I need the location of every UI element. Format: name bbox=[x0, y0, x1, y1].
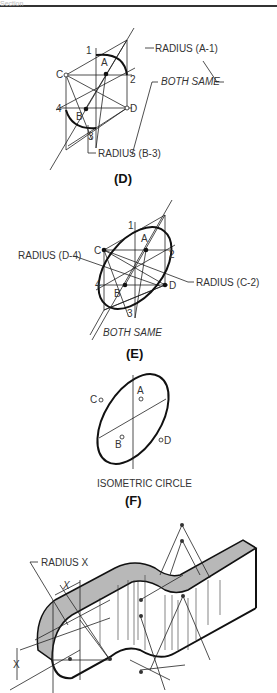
point-d bbox=[163, 283, 168, 288]
both-same-label-e: BOTH SAME bbox=[103, 327, 162, 338]
x-dimension-side: X bbox=[13, 659, 20, 670]
figure-d: 1 A C 2 4 B D 3 RADIUS (A-1) BOTH SAME R… bbox=[50, 28, 224, 186]
radius-c2-label: RADIUS (C-2) bbox=[196, 277, 259, 288]
label-3: 3 bbox=[88, 131, 94, 142]
label-d: D bbox=[130, 103, 137, 114]
label-a: A bbox=[141, 233, 148, 244]
center-point-b bbox=[84, 107, 89, 112]
center-dot bbox=[139, 670, 143, 674]
center-dot bbox=[68, 657, 72, 661]
label-4: 4 bbox=[95, 279, 101, 290]
point-d bbox=[125, 106, 129, 110]
radius-b3-label: RADIUS (B-3) bbox=[98, 148, 161, 159]
center-point-a bbox=[104, 72, 109, 77]
center-dot bbox=[139, 598, 143, 602]
label-a: A bbox=[137, 385, 144, 396]
radius-a1-label: RADIUS (A-1) bbox=[155, 43, 218, 54]
isometric-construction-figure: 1 A C 2 4 B D 3 RADIUS (A-1) BOTH SAME R… bbox=[0, 0, 277, 693]
label-a: A bbox=[101, 57, 108, 68]
x-dimension-top: X bbox=[62, 580, 70, 591]
center-dot bbox=[180, 539, 184, 543]
label-c: C bbox=[56, 69, 63, 80]
center-point-a bbox=[144, 248, 149, 253]
radius-x-label: RADIUS X bbox=[41, 557, 89, 568]
center-dot bbox=[139, 614, 143, 618]
label-d: D bbox=[169, 280, 176, 291]
label-d: D bbox=[164, 435, 171, 446]
center-dot bbox=[108, 657, 112, 661]
label-b: B bbox=[115, 439, 122, 450]
figure-g: RADIUS X X X bbox=[10, 523, 256, 693]
label-b: B bbox=[114, 288, 121, 299]
point-c bbox=[102, 248, 107, 253]
label-4: 4 bbox=[56, 103, 62, 114]
label-2: 2 bbox=[169, 249, 175, 260]
radius-d4-label: RADIUS (D-4) bbox=[18, 250, 81, 261]
center-dot bbox=[180, 523, 184, 527]
label-c: C bbox=[90, 394, 97, 405]
label-1: 1 bbox=[86, 45, 92, 56]
figure-f: A B C D ISOMETRIC CIRCLE (F) bbox=[83, 362, 193, 508]
caption-e: (E) bbox=[126, 346, 143, 361]
caption-d: (D) bbox=[114, 171, 132, 186]
isometric-circle-title: ISOMETRIC CIRCLE bbox=[97, 478, 192, 489]
label-b: B bbox=[76, 111, 83, 122]
label-3: 3 bbox=[127, 308, 133, 319]
both-same-label-d: BOTH SAME bbox=[161, 76, 220, 87]
caption-f: (F) bbox=[125, 493, 142, 508]
center-dot bbox=[181, 594, 185, 598]
label-c: C bbox=[94, 245, 101, 256]
label-2: 2 bbox=[130, 74, 136, 85]
label-1: 1 bbox=[128, 220, 134, 231]
figure-e: 1 A C 2 4 B D 3 RADIUS (D-4) RADIUS (C-2… bbox=[18, 200, 259, 361]
center-point-b bbox=[123, 283, 128, 288]
point-c bbox=[64, 73, 68, 77]
